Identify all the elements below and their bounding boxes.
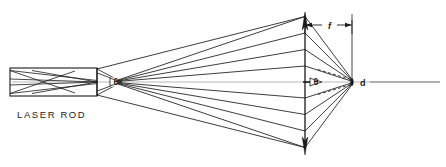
- divergence-angle-label: θ: [114, 77, 119, 87]
- lens-angle-label: θ: [314, 77, 319, 87]
- lens-angle-marker: [303, 78, 322, 87]
- focal-length-label: f: [328, 21, 332, 31]
- optics-ray-diagram: θ: [0, 0, 446, 167]
- spot-diameter-label: d: [360, 78, 366, 88]
- diagram-canvas: θ: [0, 0, 446, 167]
- laser-rod-caption: LASER ROD: [17, 109, 86, 120]
- focal-spot: [350, 79, 353, 86]
